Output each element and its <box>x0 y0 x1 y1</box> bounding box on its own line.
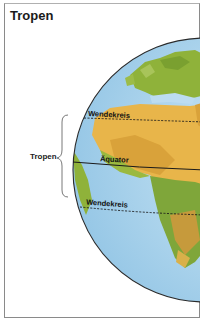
tropen-label: Tropen <box>30 152 57 161</box>
tropen-brace <box>57 115 68 197</box>
aequator-label: Äquator <box>100 154 129 164</box>
globe-illustration <box>0 0 210 330</box>
